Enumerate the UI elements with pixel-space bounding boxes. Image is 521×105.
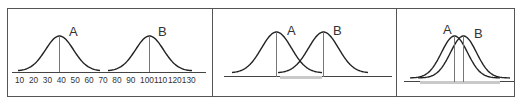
distribution-comparison-figure: A B 102030405060708090100110120130 A B A… xyxy=(0,0,521,105)
panel-1-tick-label: 110 xyxy=(154,75,168,85)
panel-1-tick-label: 130 xyxy=(182,75,196,85)
panel-1-tick-label: 90 xyxy=(126,75,136,85)
panel-1-tick-label: 80 xyxy=(112,75,122,85)
panel-1-tick-labels: 102030405060708090100110120130 xyxy=(15,75,196,85)
panel-1-tick-label: 100 xyxy=(140,75,154,85)
panel-1-tick-label: 50 xyxy=(71,75,81,85)
panel-3-label-b: B xyxy=(474,26,483,41)
panel-1-tick-label: 20 xyxy=(29,75,39,85)
panel-1-label-b: B xyxy=(158,24,167,39)
panel-2-label-b: B xyxy=(333,23,342,38)
panel-3: A B xyxy=(404,22,514,83)
panel-1-tick-label: 60 xyxy=(85,75,95,85)
panel-1-tick-label: 120 xyxy=(168,75,182,85)
panel-1-tick-label: 10 xyxy=(15,75,25,85)
panel-1-label-a: A xyxy=(69,24,78,39)
panel-1-tick-label: 30 xyxy=(43,75,53,85)
panel-1-tick-label: 40 xyxy=(57,75,67,85)
panel-2: A B xyxy=(224,23,392,78)
panel-3-label-a: A xyxy=(443,22,452,37)
panel-1: A B 102030405060708090100110120130 xyxy=(12,24,206,85)
panel-2-label-a: A xyxy=(287,23,296,38)
panel-1-tick-label: 70 xyxy=(98,75,108,85)
